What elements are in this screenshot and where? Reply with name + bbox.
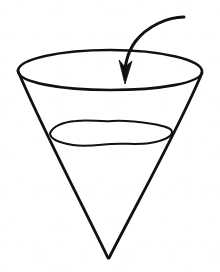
paper-background <box>0 0 220 272</box>
figure-root <box>0 0 220 272</box>
cone-diagram-svg <box>0 0 220 272</box>
